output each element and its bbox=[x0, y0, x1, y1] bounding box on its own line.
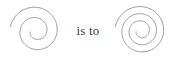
two-turn-spiral-icon bbox=[10, 7, 57, 49]
relation-label: is to bbox=[68, 22, 108, 40]
analogy-figure-canvas: is to bbox=[0, 0, 175, 63]
left-spiral-svg bbox=[2, 0, 68, 63]
right-spiral-figure bbox=[108, 0, 175, 63]
three-turn-spiral-icon bbox=[115, 7, 163, 52]
left-spiral-figure bbox=[2, 0, 68, 63]
right-spiral-svg bbox=[108, 0, 175, 63]
